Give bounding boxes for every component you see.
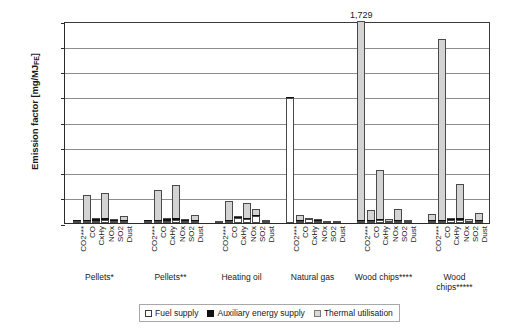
legend-item[interactable]: Fuel supply	[145, 308, 198, 318]
emission-factor-bar-chart: Emission factor [mg/MJFE] 01002003004005…	[0, 0, 505, 331]
bar-segment-fuel	[404, 221, 412, 223]
bar-segment-thermal	[357, 21, 365, 220]
bar-segment-fuel	[225, 221, 233, 223]
bar-segment-fuel	[385, 221, 393, 223]
bar	[314, 219, 322, 223]
bar	[438, 39, 446, 223]
legend-item[interactable]: Thermal utilisation	[314, 308, 393, 318]
legend-item[interactable]: Auxiliary energy supply	[207, 308, 304, 318]
category-label: Dust	[481, 226, 489, 242]
bar	[394, 209, 402, 223]
bar-segment-thermal	[367, 210, 375, 220]
category-label: CxHy	[169, 226, 177, 246]
bar	[154, 190, 162, 223]
bar-segment-fuel	[110, 221, 118, 223]
bar-segment-fuel	[323, 221, 331, 223]
bar	[465, 219, 473, 223]
category-axis-labels: CO2***COCxHyNOxSO2DustCO2***COCxHyNOxSO2…	[64, 226, 490, 270]
bar-segment-fuel	[243, 219, 251, 223]
bar-segment-fuel	[144, 221, 152, 223]
bar	[243, 203, 251, 223]
legend-label: Fuel supply	[155, 308, 198, 318]
bar-segment-fuel	[181, 221, 189, 223]
bar	[323, 222, 331, 223]
bar-segment-thermal	[83, 195, 91, 220]
category-label: CO	[231, 226, 239, 238]
y-axis-title: Emission factor [mg/MJFE]	[29, 32, 40, 192]
bar	[296, 215, 304, 223]
category-label: CO	[160, 226, 168, 238]
category-label: CO2***	[80, 226, 88, 252]
bar-segment-thermal	[101, 193, 109, 218]
bar	[404, 221, 412, 223]
bar-value-annotation: 1,729	[350, 10, 373, 20]
bar-segment-fuel	[296, 221, 304, 223]
bar-segment-fuel	[357, 221, 365, 223]
category-label: CxHy	[382, 226, 390, 246]
bar	[101, 193, 109, 223]
bar-group	[207, 23, 278, 223]
bar-segment-thermal	[394, 209, 402, 220]
bar-segment-fuel	[286, 98, 294, 223]
bar	[262, 221, 270, 223]
group-label-line: Wood	[419, 272, 490, 282]
legend-label: Thermal utilisation	[324, 308, 393, 318]
category-label: Dust	[339, 226, 347, 242]
bar-segment-fuel	[367, 221, 375, 223]
bar-group	[349, 23, 420, 223]
bar-segment-fuel	[73, 221, 81, 223]
category-label: SO2	[188, 226, 196, 242]
bar	[73, 220, 81, 223]
y-axis-title-subscript: FE	[33, 56, 40, 65]
bar	[110, 219, 118, 223]
bar	[286, 97, 294, 223]
bar-segment-fuel	[120, 221, 128, 223]
category-label: CxHy	[240, 226, 248, 246]
bar	[456, 184, 464, 223]
bar	[305, 218, 313, 223]
bar	[144, 220, 152, 223]
bar-segment-fuel	[191, 221, 199, 223]
bar-segment-fuel	[92, 221, 100, 223]
category-label: NOx	[463, 226, 471, 242]
bar	[181, 219, 189, 223]
bar-group	[136, 23, 207, 223]
group-label-line: Pellets**	[135, 272, 206, 282]
category-label: SO2	[117, 226, 125, 242]
category-label: SO2	[472, 226, 480, 242]
bar	[120, 216, 128, 223]
category-label: CO2***	[364, 226, 372, 252]
category-label: CO	[373, 226, 381, 238]
category-label: CO	[89, 226, 97, 238]
legend-swatch-icon	[207, 310, 214, 317]
group-label: Pellets**	[135, 272, 206, 282]
bar-segment-fuel	[262, 221, 270, 223]
bar	[475, 213, 483, 223]
category-label: CO	[302, 226, 310, 238]
category-label: CxHy	[311, 226, 319, 246]
bar	[357, 21, 365, 223]
bar-segment-thermal	[225, 201, 233, 220]
bar-segment-fuel	[394, 221, 402, 223]
group-label-line: Natural gas	[277, 272, 348, 282]
group-label-line: chips*****	[419, 282, 490, 292]
bar-segment-thermal	[172, 185, 180, 218]
group-label: Woodchips*****	[419, 272, 490, 292]
bar-segment-fuel	[215, 221, 223, 223]
plot-area: 0100200300400500600700800 1,729	[64, 22, 490, 224]
bar-segment-fuel	[465, 221, 473, 223]
category-label: NOx	[179, 226, 187, 242]
bar-segment-fuel	[83, 221, 91, 223]
bar-segment-thermal	[243, 203, 251, 218]
bar-segment-fuel	[234, 218, 242, 223]
bar	[428, 214, 436, 223]
category-label: NOx	[250, 226, 258, 242]
bar-segment-fuel	[438, 221, 446, 223]
bar	[333, 223, 341, 224]
bar	[234, 216, 242, 223]
bar	[83, 195, 91, 223]
group-label-line: Wood chips****	[348, 272, 419, 282]
bar	[367, 210, 375, 223]
category-label: CxHy	[98, 226, 106, 246]
bar-segment-fuel	[447, 220, 455, 223]
